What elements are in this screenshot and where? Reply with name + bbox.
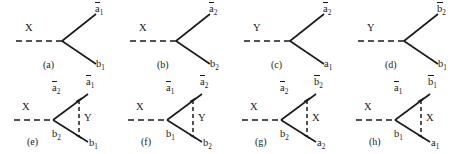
inner-lower-label-e: b2 — [52, 129, 61, 142]
incoming-label-e: X — [22, 102, 30, 113]
feynman-diagram-figure: X a1 b1 (a) X a2 b2 (b) Y a2 a1 (c) — [0, 0, 456, 154]
outgoing-lower-label-h: a1 — [431, 138, 439, 151]
caption-d: (d) — [385, 59, 397, 70]
caption-c: (c) — [271, 59, 282, 70]
caption-g: (g) — [255, 136, 267, 147]
outgoing-lower-line — [290, 41, 324, 64]
outgoing-upper-label-e: a1 — [86, 77, 94, 90]
outgoing-upper-line — [62, 14, 96, 41]
outgoing-lower-label-c: a1 — [324, 59, 332, 72]
upper-branch-line — [167, 94, 202, 120]
caption-f: (f) — [141, 136, 151, 147]
diagram-b: X a2 b2 (b) — [114, 0, 228, 77]
inner-upper-label-e: a2 — [52, 83, 60, 96]
outgoing-lower-label-e: b1 — [89, 138, 98, 151]
caption-b: (b) — [157, 59, 169, 70]
upper-branch-line — [53, 94, 88, 120]
outgoing-lower-label-a: b1 — [96, 59, 105, 72]
upper-branch-line — [395, 94, 430, 120]
outgoing-lower-line — [62, 41, 96, 64]
outgoing-upper-label-b: a2 — [209, 4, 217, 17]
incoming-label-d: Y — [367, 23, 375, 34]
caption-e: (e) — [27, 136, 38, 147]
diagram-c: Y a2 a1 (c) — [228, 0, 342, 77]
diagram-h: X a1 b1 X b1 a1 (h) — [342, 77, 456, 154]
internal-label-f: Y — [198, 113, 206, 124]
outgoing-lower-line — [404, 41, 438, 64]
inner-lower-label-g: b2 — [280, 129, 289, 142]
diagram-g: X a2 b2 X b2 a2 (g) — [228, 77, 342, 154]
outgoing-lower-label-b: b2 — [210, 59, 219, 72]
inner-lower-label-f: b1 — [166, 129, 175, 142]
incoming-label-a: X — [25, 23, 33, 34]
outgoing-upper-line — [176, 14, 210, 41]
outgoing-upper-label-a: a1 — [95, 4, 103, 17]
diagram-d: Y b2 b1 (d) — [342, 0, 456, 77]
incoming-label-b: X — [139, 23, 147, 34]
outgoing-upper-line — [404, 14, 438, 41]
internal-label-h: X — [426, 113, 434, 124]
outgoing-upper-line — [290, 14, 324, 41]
internal-label-e: Y — [84, 113, 92, 124]
outgoing-lower-label-g: a2 — [317, 138, 325, 151]
caption-a: (a) — [43, 59, 54, 70]
diagram-e: X a2 a1 Y b2 b1 (e) — [0, 77, 114, 154]
caption-h: (h) — [369, 136, 381, 147]
incoming-label-f: X — [136, 102, 144, 113]
outgoing-upper-label-f: a2 — [200, 77, 208, 90]
outgoing-upper-label-c: a2 — [323, 4, 331, 17]
diagram-a: X a1 b1 (a) — [0, 0, 114, 77]
outgoing-lower-label-f: b2 — [203, 138, 212, 151]
diagram-f: X a1 a2 Y b1 b2 (f) — [114, 77, 228, 154]
inner-upper-label-h: a1 — [394, 83, 402, 96]
outgoing-upper-label-g: b2 — [314, 77, 323, 90]
outgoing-upper-label-h: b1 — [428, 77, 437, 90]
incoming-label-g: X — [250, 102, 258, 113]
incoming-label-c: Y — [253, 23, 261, 34]
internal-label-g: X — [312, 113, 320, 124]
incoming-label-h: X — [364, 102, 372, 113]
inner-upper-label-f: a1 — [166, 83, 174, 96]
inner-upper-label-g: a2 — [280, 83, 288, 96]
outgoing-lower-line — [176, 41, 210, 64]
outgoing-lower-label-d: b1 — [438, 59, 447, 72]
inner-lower-label-h: b1 — [394, 129, 403, 142]
upper-branch-line — [281, 94, 316, 120]
outgoing-upper-label-d: b2 — [437, 4, 446, 17]
